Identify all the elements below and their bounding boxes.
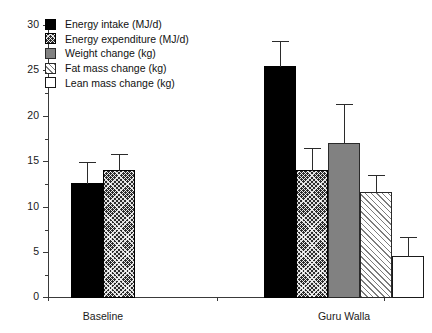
- x-axis-group-label-guru-walla: Guru Walla: [299, 310, 389, 322]
- legend-item-energy-expenditure: Energy expenditure (MJ/d): [45, 32, 189, 47]
- errorbar-guruwalla-lean-mass-change: [392, 237, 424, 257]
- y-minor-tick-2-5: [45, 275, 48, 276]
- bar-chart: 30 25 20 15 10 5 0 Baseline: [0, 0, 432, 333]
- errorbar-baseline-energy-intake: [71, 162, 103, 184]
- legend-label-fat-mass-change: Fat mass change (kg): [65, 62, 167, 74]
- chart-legend: Energy intake (MJ/d) Energy expenditure …: [45, 17, 189, 90]
- bar-guruwalla-energy-intake: [264, 66, 296, 298]
- errorbar-guruwalla-energy-expenditure: [296, 148, 328, 171]
- y-major-tick-10: [43, 207, 48, 208]
- legend-label-lean-mass-change: Lean mass change (kg): [65, 77, 175, 89]
- bar-guruwalla-lean-mass-change: [392, 256, 424, 298]
- y-axis-label-5: 5: [13, 246, 39, 257]
- cross-hatch-swatch-icon: [45, 33, 56, 44]
- y-minor-tick-22-5: [45, 93, 48, 94]
- solid-black-swatch-icon: [45, 19, 56, 30]
- y-axis-label-30: 30: [13, 19, 39, 30]
- legend-item-weight-change: Weight change (kg): [45, 46, 189, 61]
- bar-guruwalla-fat-mass-change: [360, 192, 392, 298]
- y-minor-tick-12-5: [45, 184, 48, 185]
- bar-baseline-energy-expenditure: [103, 170, 135, 298]
- solid-gray-swatch-icon: [45, 48, 56, 59]
- legend-item-energy-intake: Energy intake (MJ/d): [45, 17, 189, 32]
- legend-label-weight-change: Weight change (kg): [65, 47, 156, 59]
- y-axis-label-20: 20: [13, 110, 39, 121]
- x-tick-mid: [217, 297, 218, 301]
- bar-guruwalla-weight-change: [328, 143, 360, 298]
- y-major-tick-20: [43, 116, 48, 117]
- y-axis-label-25: 25: [13, 64, 39, 75]
- y-axis-label-15: 15: [13, 155, 39, 166]
- open-white-swatch-icon: [45, 77, 56, 88]
- legend-item-lean-mass-change: Lean mass change (kg): [45, 75, 189, 90]
- errorbar-guruwalla-weight-change: [328, 104, 360, 144]
- legend-label-energy-intake: Energy intake (MJ/d): [65, 18, 162, 30]
- legend-label-energy-expenditure: Energy expenditure (MJ/d): [65, 33, 189, 45]
- y-minor-tick-17-5: [45, 139, 48, 140]
- bar-guruwalla-energy-expenditure: [296, 170, 328, 298]
- x-tick-left: [48, 297, 49, 301]
- y-axis-label-0: 0: [13, 291, 39, 302]
- errorbar-guruwalla-fat-mass-change: [360, 175, 392, 193]
- light-hatch-swatch-icon: [45, 63, 56, 74]
- y-major-tick-5: [43, 252, 48, 253]
- errorbar-guruwalla-energy-intake: [264, 41, 296, 67]
- legend-item-fat-mass-change: Fat mass change (kg): [45, 61, 189, 76]
- errorbar-baseline-energy-expenditure: [103, 154, 135, 171]
- y-major-tick-15: [43, 161, 48, 162]
- y-axis-label-10: 10: [13, 201, 39, 212]
- bar-baseline-energy-intake: [71, 183, 103, 298]
- x-axis-group-label-baseline: Baseline: [58, 310, 148, 322]
- y-minor-tick-7-5: [45, 230, 48, 231]
